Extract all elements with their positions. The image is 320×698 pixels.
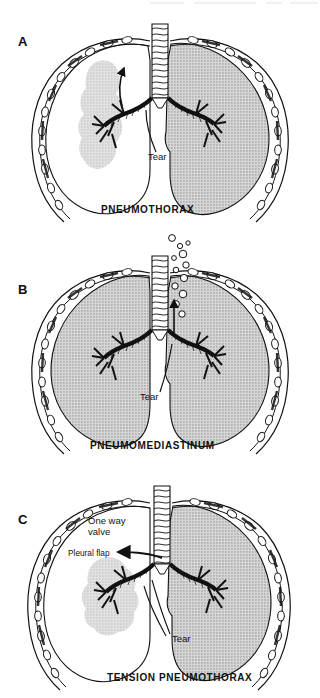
panel-b-illustration (0, 232, 320, 464)
panel-letter-b: B (18, 282, 27, 297)
tear-label-a: Tear (148, 152, 166, 163)
panel-letter-c: C (18, 512, 27, 527)
panel-title-b: PNEUMOMEDIASTINUM (90, 440, 215, 451)
panel-c-illustration (0, 464, 320, 698)
panel-letter-a: A (18, 34, 27, 49)
tear-label-c: Tear (172, 634, 190, 645)
trachea (152, 256, 168, 330)
panel-title-c: TENSION PNEUMOTHORAX (107, 672, 252, 683)
tear-label-b: Tear (140, 392, 158, 403)
panel-tension-pneumothorax: C One way valve Pleural flap Tear TENSIO… (0, 464, 320, 698)
panel-pneumothorax: A Tear PNEUMOTHORAX (0, 0, 320, 232)
panel-pneumomediastinum: B Tear PNEUMOMEDIASTINUM (0, 232, 320, 464)
pleural-flap-label: Pleural flap (68, 548, 110, 559)
one-way-valve-line2: valve (88, 526, 110, 537)
panel-title-a: PNEUMOTHORAX (101, 204, 194, 215)
panel-a-illustration (0, 0, 320, 232)
one-way-valve-label: One way valve (88, 516, 126, 537)
figure-root: A Tear PNEUMOTHORAX (0, 0, 320, 698)
one-way-valve-line1: One way (88, 515, 126, 526)
trachea (154, 486, 170, 564)
trachea (152, 24, 168, 98)
